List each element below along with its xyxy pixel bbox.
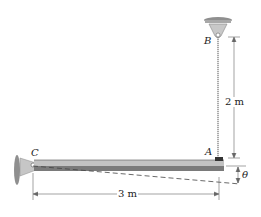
label-point-b: B (204, 36, 211, 46)
label-3m: 3 m (117, 189, 138, 199)
label-point-c: C (31, 148, 39, 158)
beam-ca (34, 157, 224, 171)
label-point-a: A (205, 147, 212, 157)
label-2m: 2 m (224, 97, 245, 107)
diagram-canvas (0, 0, 261, 217)
label-theta: θ (242, 170, 248, 180)
